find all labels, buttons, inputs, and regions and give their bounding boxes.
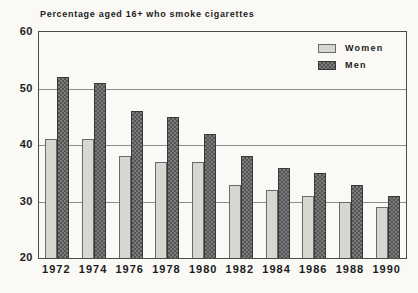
bar-women-1974 [82, 139, 94, 258]
y-axis-tick-label-50: 50 [0, 82, 33, 94]
bar-men-1984 [278, 168, 290, 258]
x-axis-tick-label-1976: 1976 [111, 263, 148, 275]
bar-men-1978 [167, 117, 179, 258]
bar-group-1990 [369, 196, 406, 258]
bar-group-1976 [112, 111, 149, 258]
bar-men-1974 [94, 83, 106, 258]
bar-women-1980 [192, 162, 204, 258]
bar-women-1976 [119, 156, 131, 258]
bar-men-1980 [204, 134, 216, 258]
women-swatch-icon [318, 44, 336, 53]
bar-group-1980 [186, 134, 223, 258]
bar-women-1982 [229, 185, 241, 258]
bar-group-1982 [223, 156, 260, 258]
bar-women-1986 [302, 196, 314, 258]
y-axis-tick-label-20: 20 [0, 251, 33, 263]
bar-women-1990 [376, 207, 388, 258]
bar-men-1982 [241, 156, 253, 258]
legend: Women Men [318, 43, 383, 77]
x-axis-tick-label-1990: 1990 [368, 263, 405, 275]
chart-title: Percentage aged 16+ who smoke cigarettes [40, 9, 254, 19]
men-swatch-icon [318, 61, 336, 70]
x-axis-tick-label-1986: 1986 [295, 263, 332, 275]
x-axis-tick-label-1978: 1978 [148, 263, 185, 275]
x-axis-tick-label-1980: 1980 [185, 263, 222, 275]
x-axis-tick-label-1988: 1988 [332, 263, 369, 275]
legend-row-women: Women [318, 43, 383, 53]
bar-group-1986 [296, 173, 333, 258]
y-axis-tick-label-60: 60 [0, 25, 33, 37]
legend-row-men: Men [318, 60, 383, 70]
bar-group-1984 [259, 168, 296, 258]
plot-area: Women Men [38, 31, 407, 259]
x-axis-tick-label-1984: 1984 [258, 263, 295, 275]
bar-men-1986 [314, 173, 326, 258]
smoking-bar-chart-figure: Percentage aged 16+ who smoke cigarettes… [0, 0, 418, 293]
bar-men-1972 [57, 77, 69, 258]
legend-label-women: Women [345, 43, 383, 53]
bar-women-1978 [155, 162, 167, 258]
bar-group-1988 [333, 185, 370, 258]
y-axis-tick-label-40: 40 [0, 138, 33, 150]
bar-women-1972 [45, 139, 57, 258]
bar-men-1988 [351, 185, 363, 258]
x-axis-tick-label-1972: 1972 [38, 263, 75, 275]
legend-label-men: Men [345, 60, 367, 70]
bar-men-1990 [388, 196, 400, 258]
bar-women-1984 [266, 190, 278, 258]
bar-men-1976 [131, 111, 143, 258]
bar-group-1972 [39, 77, 76, 258]
x-axis-tick-label-1974: 1974 [75, 263, 112, 275]
x-axis-tick-label-1982: 1982 [222, 263, 259, 275]
bar-women-1988 [339, 202, 351, 259]
bar-group-1974 [76, 83, 113, 258]
y-axis-tick-label-30: 30 [0, 195, 33, 207]
bar-group-1978 [149, 117, 186, 258]
